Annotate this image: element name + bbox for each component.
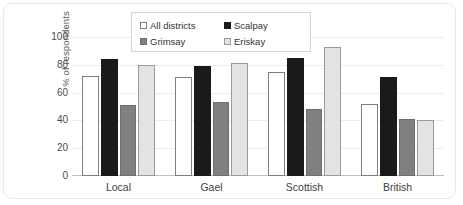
y-axis-tick-label: 80 [34, 59, 68, 71]
legend-swatch-icon [140, 22, 147, 29]
y-axis-tick-labels: 100806040200 [34, 31, 68, 177]
legend-label: Grimsay [150, 36, 185, 47]
y-axis-tick-label: 60 [34, 87, 68, 99]
bar[interactable] [399, 119, 416, 176]
x-axis-tick-label: Gael [165, 181, 258, 197]
legend-label: Eriskay [234, 36, 265, 47]
legend-swatch-icon [140, 38, 147, 45]
x-axis-tick-labels: LocalGaelScottishBritish [72, 181, 444, 197]
bar-groups [72, 37, 444, 176]
plot-area [72, 37, 444, 176]
chart-legend: All districtsScalpayGrimsayEriskay [131, 12, 311, 52]
legend-label: Scalpay [234, 20, 268, 31]
legend-item[interactable]: All districts [140, 20, 220, 31]
legend-swatch-icon [224, 22, 231, 29]
legend-item[interactable]: Eriskay [224, 36, 304, 47]
bar[interactable] [138, 65, 155, 176]
bar-group-bars [175, 37, 248, 176]
bar-group [165, 37, 258, 176]
bar[interactable] [213, 102, 230, 176]
bar-group [258, 37, 351, 176]
bar[interactable] [287, 58, 304, 176]
bar[interactable] [231, 63, 248, 176]
legend-item[interactable]: Scalpay [224, 20, 304, 31]
bar[interactable] [306, 109, 323, 176]
bar-group [72, 37, 165, 176]
bar[interactable] [417, 120, 434, 176]
y-axis-tick-label: 0 [34, 170, 68, 182]
bar-group [351, 37, 444, 176]
legend-swatch-icon [224, 38, 231, 45]
bar[interactable] [324, 47, 341, 176]
bar[interactable] [175, 77, 192, 176]
bar[interactable] [380, 77, 397, 176]
x-axis-tick-label: Local [72, 181, 165, 197]
y-axis-tick-label: 40 [34, 114, 68, 126]
legend-item[interactable]: Grimsay [140, 36, 220, 47]
y-axis-tick-label: 20 [34, 142, 68, 154]
bar[interactable] [194, 66, 211, 176]
bar[interactable] [101, 59, 118, 176]
bar[interactable] [82, 76, 99, 176]
legend-label: All districts [150, 20, 195, 31]
bar[interactable] [268, 72, 285, 176]
y-axis-tick-label: 100 [34, 31, 68, 43]
x-axis-tick-label: Scottish [258, 181, 351, 197]
bar-group-bars [361, 37, 434, 176]
bar-group-bars [268, 37, 341, 176]
bar-group-bars [82, 37, 155, 176]
bar[interactable] [361, 104, 378, 176]
bar[interactable] [120, 105, 137, 176]
x-axis-tick-label: British [351, 181, 444, 197]
chart-container: % of respondents 100806040200 LocalGaelS… [3, 3, 456, 199]
